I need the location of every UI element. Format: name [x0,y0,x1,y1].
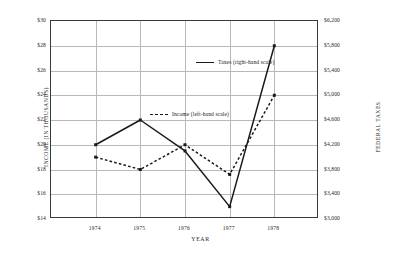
data-point-marker [94,156,97,159]
data-point-marker [273,44,276,47]
y-axis-left-tick-label: $28 [2,42,46,48]
y-axis-right-tick-label: $4,200 [324,141,368,147]
y-axis-left-tick-label: $20 [2,141,46,147]
x-axis-tick-label: 1977 [209,225,249,231]
y-axis-left-tick-label: $18 [2,166,46,172]
chart-container: INCOME (IN THOUSANDS) FEDERAL TAXES YEAR… [0,0,401,253]
data-point-marker [228,205,231,208]
x-axis-tick-label: 1974 [75,225,115,231]
legend-label-income: Income (left-hand scale) [172,111,229,117]
data-point-marker [139,168,142,171]
x-axis-tick-label: 1976 [164,225,204,231]
legend-label-taxes: Taxes (right-hand scale) [218,59,274,65]
legend-item-taxes: Taxes (right-hand scale) [196,52,274,70]
legend-item-income: Income (left-hand scale) [150,104,229,122]
x-axis-tick-label: 1978 [253,225,293,231]
dashed-line-icon [150,111,168,117]
y-axis-right-tick-label: $5,400 [324,67,368,73]
y-axis-right-tick-label: $5,000 [324,91,368,97]
y-axis-right-tick-label: $4,600 [324,116,368,122]
x-axis-title: YEAR [0,236,401,242]
y-axis-left-tick-label: $26 [2,67,46,73]
data-point-marker [228,173,231,176]
y-axis-left-tick-label: $24 [2,91,46,97]
y-axis-left-title: INCOME (IN THOUSANDS) [43,87,49,167]
y-axis-right-title: FEDERAL TAXES [374,101,380,152]
data-point-marker [184,149,187,152]
y-axis-left-tick-label: $16 [2,190,46,196]
y-axis-left-tick-label: $30 [2,17,46,23]
solid-line-icon [196,59,214,65]
data-point-marker [184,143,187,146]
y-axis-left-tick-label: $14 [2,215,46,221]
data-point-marker [139,119,142,122]
data-point-marker [94,143,97,146]
data-point-marker [273,94,276,97]
y-axis-right-tick-label: $3,800 [324,166,368,172]
y-axis-right-tick-label: $6,200 [324,17,368,23]
y-axis-left-tick-label: $22 [2,116,46,122]
y-axis-right-tick-label: $3,000 [324,215,368,221]
x-axis-tick-label: 1975 [119,225,159,231]
y-axis-right-tick-label: $3,400 [324,190,368,196]
y-axis-right-tick-label: $5,800 [324,42,368,48]
